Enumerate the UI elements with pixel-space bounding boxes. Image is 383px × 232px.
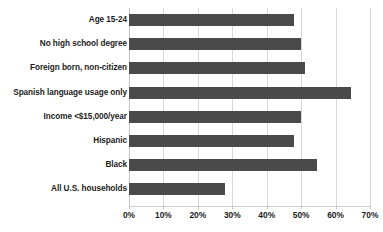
tick-mark [336,206,337,209]
category-label: Income <$15,000/year [3,112,127,122]
category-label: Age 15-24 [3,15,127,25]
tick-mark [198,206,199,209]
bar [129,87,351,99]
tick-label: 70% [350,209,383,221]
category-label: Black [3,160,127,170]
bar-row: All U.S. households [0,177,383,201]
tick-mark [163,206,164,209]
bar [129,14,294,26]
bar [129,183,225,195]
tick-mark [129,206,130,209]
tick-mark [301,206,302,209]
bar-row: No high school degree [0,32,383,56]
bar [129,159,317,171]
x-axis-tick-labels: 0%10%20%30%40%50%60%70% [0,209,383,227]
bar-row: Foreign born, non-citizen [0,56,383,80]
bar-row: Spanish language usage only [0,81,383,105]
tick-mark [370,206,371,209]
tick-mark [267,206,268,209]
category-label: Spanish language usage only [3,88,127,98]
x-axis-baseline [129,206,370,207]
bar [129,135,294,147]
bar-row: Black [0,153,383,177]
category-label: No high school degree [3,39,127,49]
category-label: All U.S. households [3,184,127,194]
bar [129,38,301,50]
tick-mark [232,206,233,209]
category-label: Foreign born, non-citizen [3,63,127,73]
bar-rows: Age 15-24No high school degreeForeign bo… [0,8,383,206]
bar [129,62,305,74]
bar [129,111,301,123]
bar-row: Age 15-24 [0,8,383,32]
bar-chart: Age 15-24No high school degreeForeign bo… [0,0,383,232]
bar-row: Hispanic [0,129,383,153]
bar-row: Income <$15,000/year [0,105,383,129]
category-label: Hispanic [3,136,127,146]
